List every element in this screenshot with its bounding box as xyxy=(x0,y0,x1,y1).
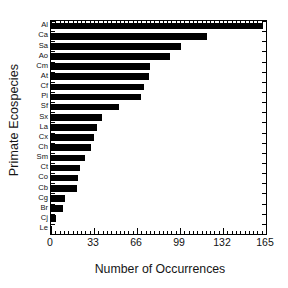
bar-row xyxy=(51,143,266,153)
bar-row xyxy=(51,153,266,163)
bar-at xyxy=(51,73,149,80)
bar-sm xyxy=(51,155,85,162)
y-axis-tick-label: Cj xyxy=(26,213,50,223)
bar-row xyxy=(51,183,266,193)
bar-cg xyxy=(51,195,65,202)
bar-cb xyxy=(51,185,77,192)
x-axis-major-tick xyxy=(266,228,267,234)
y-axis-tick-label: Sm xyxy=(26,152,50,162)
bar-cj xyxy=(51,215,56,222)
x-axis-tick-label: 0 xyxy=(47,236,53,248)
bar-row xyxy=(51,72,266,82)
x-axis-tick-label: 165 xyxy=(256,236,274,248)
bar-cx xyxy=(51,134,94,141)
bar-br xyxy=(51,205,63,212)
x-axis-title: Number of Occurrences xyxy=(40,262,280,276)
bar-sf xyxy=(51,104,119,111)
y-axis-tick xyxy=(51,234,55,235)
bar-row xyxy=(51,122,266,132)
y-axis-tick-label: Cg xyxy=(26,192,50,202)
bar-cm xyxy=(51,63,150,70)
y-axis-tick xyxy=(262,234,266,235)
x-axis-tick-labels: 0336699132165 xyxy=(50,236,265,250)
y-axis-tick-label: Co xyxy=(26,172,50,182)
bar-row xyxy=(51,193,266,203)
bar-row xyxy=(51,51,266,61)
bar-row xyxy=(51,224,266,234)
bar-row xyxy=(51,31,266,41)
y-axis-tick-label: Ch xyxy=(26,142,50,152)
bar-ao xyxy=(51,53,170,60)
bar-row xyxy=(51,62,266,72)
x-axis-tick-label: 66 xyxy=(130,236,142,248)
x-axis-tick-label: 99 xyxy=(173,236,185,248)
y-axis-tick-label: Al xyxy=(26,20,50,30)
bar-al xyxy=(51,23,263,30)
x-axis-tick-label: 132 xyxy=(213,236,231,248)
bar-ct xyxy=(51,165,80,172)
bar-row xyxy=(51,112,266,122)
y-axis-tick-label: Ca xyxy=(26,30,50,40)
bar-series xyxy=(51,21,266,234)
y-axis-tick-label: Cm xyxy=(26,61,50,71)
bar-la xyxy=(51,124,97,131)
y-axis-tick-label: Sf xyxy=(26,101,50,111)
bar-row xyxy=(51,214,266,224)
bar-row xyxy=(51,163,266,173)
y-axis-tick-label: Br xyxy=(26,203,50,213)
x-axis-tick-label: 33 xyxy=(87,236,99,248)
y-axis-tick-label: At xyxy=(26,71,50,81)
bar-co xyxy=(51,175,78,182)
y-axis-tick-label: Ao xyxy=(26,50,50,60)
y-axis-tick-label: Cb xyxy=(26,182,50,192)
y-axis-title: Primate Ecospecies xyxy=(0,0,28,240)
bar-chart: Primate Ecospecies AlCaSaAoCmAtCfPiSfSxL… xyxy=(0,0,288,288)
bar-row xyxy=(51,204,266,214)
bar-sa xyxy=(51,43,181,50)
plot-area xyxy=(50,20,267,235)
bar-ch xyxy=(51,144,91,151)
bar-row xyxy=(51,133,266,143)
bar-cf xyxy=(51,84,144,91)
bar-row xyxy=(51,41,266,51)
y-axis-tick-label: Sa xyxy=(26,40,50,50)
bar-le xyxy=(51,226,52,233)
y-axis-tick-label: Cf xyxy=(26,81,50,91)
bar-ca xyxy=(51,33,207,40)
y-axis-tick-label: Le xyxy=(26,223,50,233)
bar-row xyxy=(51,92,266,102)
x-axis-major-tick xyxy=(266,21,267,27)
y-axis-title-text: Primate Ecospecies xyxy=(7,64,21,176)
y-axis-tick-labels: AlCaSaAoCmAtCfPiSfSxLaCxChSmCtCoCbCgBrCj… xyxy=(26,20,50,233)
bar-pi xyxy=(51,94,141,101)
bar-sx xyxy=(51,114,102,121)
y-axis-tick-label: La xyxy=(26,121,50,131)
bar-row xyxy=(51,173,266,183)
y-axis-tick-label: Cx xyxy=(26,132,50,142)
y-axis-tick-label: Pi xyxy=(26,91,50,101)
bar-row xyxy=(51,21,266,31)
bar-row xyxy=(51,102,266,112)
bar-row xyxy=(51,82,266,92)
y-axis-tick-label: Ct xyxy=(26,162,50,172)
y-axis-tick-label: Sx xyxy=(26,111,50,121)
